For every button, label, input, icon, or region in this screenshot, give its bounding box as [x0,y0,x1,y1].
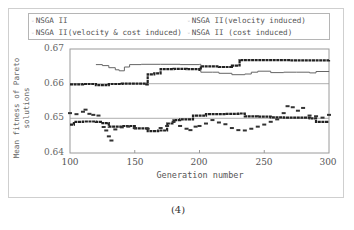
data-point [194,126,198,128]
data-point [68,112,72,114]
data-point [243,129,247,131]
plot-area [0,0,354,230]
data-point [87,113,91,115]
data-point [282,112,286,114]
data-point [230,127,234,129]
data-point [102,126,106,128]
data-point [296,110,300,112]
data-point [172,121,176,123]
data-point [204,123,208,125]
data-point [269,121,273,123]
data-point [291,106,295,108]
data-point [275,118,279,120]
data-point [249,128,253,130]
data-point [165,125,169,127]
data-point [133,127,137,129]
data-point [104,129,108,131]
data-point [327,114,331,116]
x-axis-label: Generation number [130,170,270,180]
data-point [178,125,182,127]
x-tick: 250 [249,157,279,167]
data-point [81,111,85,113]
data-point [188,129,192,131]
data-point [301,107,305,109]
data-point [126,126,130,128]
data-point [256,126,260,128]
data-point [113,128,117,130]
data-point [74,113,78,115]
x-tick: 100 [55,157,85,167]
data-point [314,115,318,117]
data-point [286,105,290,107]
data-point [262,124,266,126]
x-tick: 300 [313,157,343,167]
data-point [236,129,240,131]
data-point [146,128,150,130]
data-point [321,117,325,119]
data-point [84,109,88,111]
data-point [107,135,111,137]
x-tick: 150 [120,157,150,167]
data-point [210,119,214,121]
x-tick: 200 [184,157,214,167]
data-point [223,123,227,125]
data-point [185,128,189,130]
data-point [96,115,100,117]
data-point [198,125,202,127]
data-point [159,127,163,129]
data-point [91,114,95,116]
data-point [308,115,312,117]
data-point [217,121,221,123]
figure-caption: (4) [158,204,198,215]
data-point [109,140,113,142]
data-point [120,126,124,128]
